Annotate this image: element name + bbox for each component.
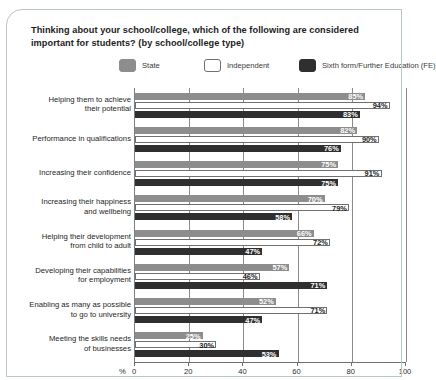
bar-group: 75%91%75% (135, 157, 405, 191)
category-label: Increasing their confidence (15, 168, 131, 178)
category-label-line: Meeting the skills needs (15, 334, 131, 344)
bar-value-label: 72% (313, 239, 328, 246)
chart-legend: State Independent Sixth form/Further Edu… (119, 59, 411, 75)
bar-value-label: 47% (245, 248, 260, 255)
category-axis-labels: Helping them to achievetheir potentialPe… (15, 88, 131, 362)
cropped-text-above-chart (8, 0, 398, 9)
bar-value-label: 85% (348, 93, 363, 100)
bar-value-label: 75% (321, 161, 336, 168)
bar-value-label: 71% (310, 307, 325, 314)
bar-value-label: 82% (340, 127, 355, 134)
bar-state (135, 230, 314, 237)
category-label: Helping them to achievetheir potential (15, 95, 131, 114)
bar-value-label: 57% (272, 264, 287, 271)
category-label-line: Increasing their confidence (15, 168, 131, 178)
bar-value-label: 79% (332, 205, 347, 212)
bar-value-label: 94% (373, 102, 388, 109)
bar-ind (135, 102, 390, 109)
bar-state (135, 93, 365, 100)
bar-value-label: 58% (275, 214, 290, 221)
bar-fe (135, 145, 341, 152)
legend-swatch-independent (204, 59, 221, 72)
bar-value-label: 90% (362, 136, 377, 143)
bar-fe (135, 350, 279, 357)
axis-tick (134, 362, 135, 366)
bar-value-label: 53% (262, 351, 277, 358)
bar-value-label: 76% (324, 145, 339, 152)
bar-state (135, 264, 289, 271)
category-label-line: Helping their development (15, 232, 131, 242)
axis-tick (242, 362, 243, 366)
bar-state (135, 127, 357, 134)
category-label-line: their potential (15, 104, 131, 114)
bar-value-label: 75% (321, 180, 336, 187)
category-label-line: and wellbeing (15, 207, 131, 217)
category-label: Meeting the skills needsof businesses (15, 334, 131, 353)
bar-value-label: 91% (365, 170, 380, 177)
bar-fe (135, 282, 327, 289)
bar-fe (135, 213, 292, 220)
legend-label-sixth-form-fe: Sixth form/Further Education (FE) (322, 61, 436, 70)
bar-value-label: 47% (245, 317, 260, 324)
plot-area: 85%94%83%82%90%76%75%91%75%70%79%58%66%7… (134, 88, 405, 362)
axis-tick (188, 362, 189, 366)
value-axis: 020406080100 (134, 362, 405, 380)
bar-value-label: 66% (297, 230, 312, 237)
bar-state (135, 298, 276, 305)
bar-state (135, 161, 338, 168)
bar-group: 25%30%53% (135, 328, 405, 362)
category-label: Helping their developmentfrom child to a… (15, 232, 131, 251)
bar-value-label: 52% (259, 298, 274, 305)
bar-fe (135, 248, 262, 255)
chart-title: Thinking about your school/college, whic… (31, 24, 361, 50)
axis-tick (405, 362, 406, 366)
category-label-line: Increasing their happiness (15, 197, 131, 207)
bar-fe (135, 179, 338, 186)
bar-fe (135, 111, 360, 118)
bar-value-label: 30% (199, 342, 214, 349)
axis-tick-label: 100 (399, 367, 412, 376)
category-label-line: Helping them to achieve (15, 95, 131, 105)
bar-value-label: 25% (186, 333, 201, 340)
bar-ind (135, 273, 260, 280)
category-label: Enabling as many as possibleto go to uni… (15, 300, 131, 319)
legend-swatch-sixth-form-fe (299, 59, 316, 72)
bar-group: 66%72%47% (135, 225, 405, 259)
chart-panel: Thinking about your school/college, whic… (6, 9, 402, 377)
category-label-line: of businesses (15, 344, 131, 354)
bar-ind (135, 239, 330, 246)
bar-ind (135, 307, 327, 314)
bar-value-label: 46% (243, 273, 258, 280)
category-label-line: Enabling as many as possible (15, 300, 131, 310)
legend-item-state: State (119, 59, 160, 72)
value-axis-unit: % (119, 367, 126, 376)
bar-fe (135, 316, 262, 323)
category-label-line: Performance in qualifications (15, 134, 131, 144)
bar-state (135, 195, 325, 202)
axis-gridline (406, 88, 407, 362)
category-label-line: to go to university (15, 310, 131, 320)
axis-tick (297, 362, 298, 366)
axis-tick-label: 80 (347, 367, 355, 376)
category-label-line: Developing their capabilities (15, 266, 131, 276)
legend-item-sixth-form-fe: Sixth form/Further Education (FE) (299, 59, 436, 72)
bar-group: 85%94%83% (135, 88, 405, 122)
bar-ind (135, 204, 349, 211)
category-label: Developing their capabilitiesfor employm… (15, 266, 131, 285)
bar-ind (135, 170, 382, 177)
category-label: Increasing their happinessand wellbeing (15, 197, 131, 216)
legend-swatch-state (119, 59, 136, 72)
category-label-line: from child to adult (15, 241, 131, 251)
bar-value-label: 71% (310, 282, 325, 289)
category-label: Performance in qualifications (15, 134, 131, 144)
axis-tick-label: 40 (238, 367, 246, 376)
bar-group: 52%71%47% (135, 294, 405, 328)
bar-group: 70%79%58% (135, 191, 405, 225)
legend-label-independent: Independent (227, 61, 269, 70)
bar-value-label: 70% (308, 196, 323, 203)
legend-label-state: State (142, 61, 160, 70)
axis-tick-label: 60 (292, 367, 300, 376)
axis-tick (351, 362, 352, 366)
axis-tick-label: 20 (184, 367, 192, 376)
bar-ind (135, 136, 379, 143)
